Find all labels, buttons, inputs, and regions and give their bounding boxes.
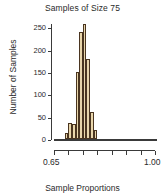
x-tick-label-1.00: 1.00 — [144, 157, 161, 167]
y-tick-label-150: 150 — [33, 69, 46, 77]
y-tick-label-200: 200 — [33, 47, 46, 55]
x-tick-label-0.65: 0.65 — [43, 157, 60, 167]
y-tick-100 — [48, 95, 51, 96]
x-tick-0.9 — [126, 151, 127, 155]
x-tick-0.8 — [97, 151, 98, 155]
y-axis-title: Number of Samples — [8, 22, 18, 132]
chart-title: Samples of Size 75 — [0, 3, 165, 13]
y-tick-200 — [48, 51, 51, 52]
y-tick-label-50: 50 — [38, 114, 46, 122]
x-tick-0.75 — [83, 151, 84, 155]
y-tick-label-100: 100 — [33, 91, 46, 99]
y-tick-150 — [48, 73, 51, 74]
x-axis-title: Sample Proportions — [0, 183, 165, 193]
plot-baseline — [54, 139, 157, 141]
x-tick-0.85 — [112, 151, 113, 155]
y-tick-label-0: 0 — [42, 136, 46, 144]
histogram-bar — [94, 130, 98, 139]
x-tick-0.95 — [141, 151, 142, 155]
y-tick-50 — [48, 118, 51, 119]
x-tick-0.65 — [54, 151, 55, 155]
x-tick-0.7 — [68, 151, 69, 155]
histogram-bars — [52, 20, 159, 139]
histogram-figure: Samples of Size 75 Number of Samples 050… — [0, 0, 165, 196]
y-tick-250 — [48, 28, 51, 29]
y-tick-label-250: 250 — [33, 24, 46, 32]
y-tick-0 — [48, 140, 51, 141]
x-tick-1 — [155, 151, 156, 155]
